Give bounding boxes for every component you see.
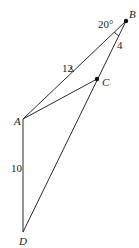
angle-arc-b bbox=[114, 32, 119, 36]
length-label-ab: 12 bbox=[62, 62, 73, 74]
label-b: B bbox=[129, 8, 136, 20]
geometry-diagram: B C A D 12 4 10 20° bbox=[0, 0, 139, 248]
length-label-bc: 4 bbox=[117, 39, 123, 51]
point-b-dot bbox=[124, 19, 128, 23]
segment-ac bbox=[23, 79, 97, 119]
label-c: C bbox=[102, 76, 110, 88]
point-c-dot bbox=[95, 77, 99, 81]
label-a: A bbox=[13, 115, 21, 127]
label-d: D bbox=[18, 235, 27, 247]
length-label-ad: 10 bbox=[11, 162, 23, 174]
angle-label-b: 20° bbox=[98, 18, 113, 30]
segment-ab bbox=[23, 21, 126, 119]
segment-bd bbox=[23, 21, 126, 232]
